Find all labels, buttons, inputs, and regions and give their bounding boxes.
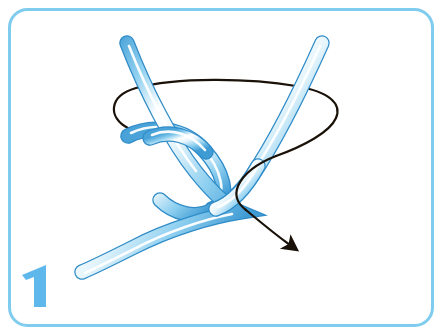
- instruction-card: 1 Step 1 of a knot: a blue cord forms a …: [0, 0, 442, 335]
- knot-diagram: [0, 0, 442, 335]
